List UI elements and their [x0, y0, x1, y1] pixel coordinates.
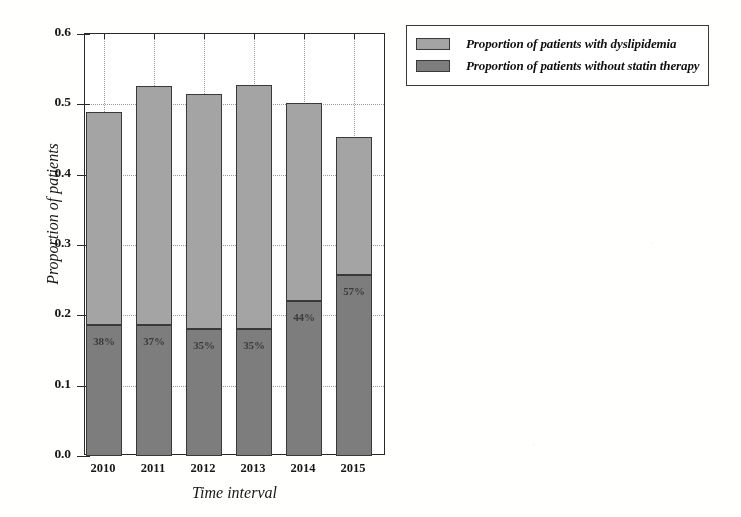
bar-segment-dyslipidemia — [336, 137, 372, 274]
bar-segment-no-statin — [136, 325, 172, 456]
y-tick-mark-inner — [85, 456, 90, 457]
bar-2011: 37% — [136, 34, 172, 456]
x-tick-label: 2015 — [323, 461, 383, 476]
legend-label-dyslipidemia: Proportion of patients with dyslipidemia — [466, 36, 677, 52]
y-tick-mark — [77, 34, 85, 35]
bar-segment-dyslipidemia — [136, 86, 172, 325]
y-tick-mark — [77, 245, 85, 246]
y-axis-title: Proportion of patients — [44, 99, 62, 329]
legend-label-no-statin: Proportion of patients without statin th… — [466, 58, 700, 74]
bar-segment-dyslipidemia — [236, 85, 272, 329]
bar-segment-no-statin — [186, 329, 222, 456]
plot-area: 38%37%35%35%44%57% — [84, 33, 385, 455]
y-tick-label: 0.2 — [54, 305, 71, 321]
x-axis-title: Time interval — [84, 484, 385, 502]
y-tick-mark — [77, 315, 85, 316]
bar-segment-no-statin — [336, 275, 372, 456]
bar-2013: 35% — [236, 34, 272, 456]
bar-2014: 44% — [286, 34, 322, 456]
bar-segment-no-statin — [86, 325, 122, 456]
y-tick-label: 0.3 — [54, 235, 71, 251]
bar-segment-dyslipidemia — [86, 112, 122, 325]
y-tick-label: 0.5 — [54, 94, 71, 110]
bar-segment-no-statin — [236, 329, 272, 456]
chart-legend: Proportion of patients with dyslipidemia… — [406, 25, 709, 86]
legend-swatch-dyslipidemia — [416, 38, 450, 50]
legend-item-no-statin: Proportion of patients without statin th… — [416, 55, 699, 77]
y-tick-mark — [77, 456, 85, 457]
y-tick-mark — [77, 386, 85, 387]
y-tick-mark — [77, 175, 85, 176]
chart-figure: Proportion of patients 0.00.10.20.30.40.… — [0, 0, 741, 517]
y-tick-label: 0.6 — [54, 24, 71, 40]
y-tick-label: 0.4 — [54, 165, 71, 181]
bar-segment-dyslipidemia — [286, 103, 322, 301]
bar-2010: 38% — [86, 34, 122, 456]
bar-2015: 57% — [336, 34, 372, 456]
bar-segment-dyslipidemia — [186, 94, 222, 329]
y-tick-label: 0.0 — [54, 446, 71, 462]
legend-item-dyslipidemia: Proportion of patients with dyslipidemia — [416, 33, 699, 55]
bar-segment-no-statin — [286, 301, 322, 456]
legend-swatch-no-statin — [416, 60, 450, 72]
bar-2012: 35% — [186, 34, 222, 456]
y-tick-label: 0.1 — [54, 376, 71, 392]
y-tick-mark — [77, 104, 85, 105]
